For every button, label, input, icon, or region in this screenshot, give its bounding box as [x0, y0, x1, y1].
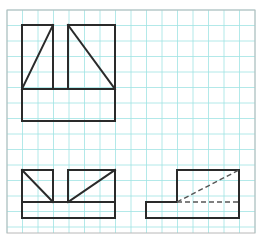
orthographic-drawing	[0, 0, 266, 240]
